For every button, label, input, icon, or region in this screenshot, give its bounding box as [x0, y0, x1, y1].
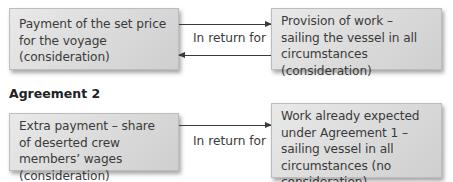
agreement1-connector-label: In return for	[193, 31, 266, 45]
agreement1-right-text: Provision of work – sailing the vessel i…	[281, 14, 417, 78]
agreement2-left-text: Extra payment – share of deserted crew m…	[19, 119, 155, 182]
agreement2-left-box: Extra payment – share of deserted crew m…	[9, 113, 179, 171]
agreement1-left-box: Payment of the set price for the voyage …	[9, 8, 179, 70]
agreement2-right-text: Work already expected under Agreement 1 …	[281, 109, 419, 182]
agreement2-connector-label: In return for	[193, 134, 266, 148]
agreement1-return-arrow	[179, 55, 271, 56]
agreement1-forward-arrow	[179, 24, 271, 25]
agreement2-heading: Agreement 2	[9, 86, 100, 101]
agreement2-right-box: Work already expected under Agreement 1 …	[271, 103, 442, 178]
agreement2-forward-arrow	[179, 125, 271, 126]
agreement1-right-box: Provision of work – sailing the vessel i…	[271, 8, 442, 70]
agreement1-left-text: Payment of the set price for the voyage …	[19, 17, 166, 64]
